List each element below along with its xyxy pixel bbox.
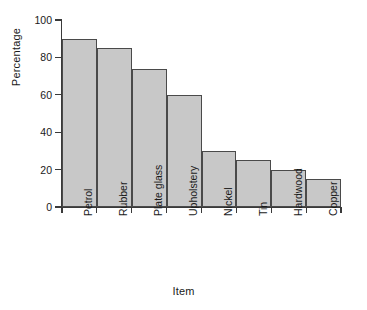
y-axis-tick-label: 60 [16, 90, 52, 100]
x-axis-tick [201, 207, 202, 213]
y-axis-tick [55, 169, 61, 170]
y-axis-tick-label: 100 [16, 15, 52, 25]
x-axis-tick [96, 207, 97, 213]
y-axis-tick-label: 0 [16, 202, 52, 212]
x-axis-tick [236, 207, 237, 213]
y-axis-tick [55, 19, 61, 20]
x-axis-category-label: Copper [328, 182, 339, 216]
x-axis-tick [306, 207, 307, 213]
x-axis-category-label: Hardwood [293, 168, 304, 216]
y-axis-tick-label: 80 [16, 52, 52, 62]
y-axis-tick [55, 57, 61, 58]
y-axis-tick-label: 20 [16, 165, 52, 175]
y-axis-tick [55, 132, 61, 133]
x-axis-tick [61, 207, 62, 213]
x-axis-title: Item [0, 285, 367, 297]
x-axis-tick [340, 207, 341, 213]
bar [62, 39, 97, 207]
y-axis-tick-label: 40 [16, 127, 52, 137]
x-axis-tick [166, 207, 167, 213]
x-axis-category-label: Plate glass [153, 165, 164, 216]
x-axis-category-label: Nickel [223, 187, 234, 216]
bar [236, 160, 271, 207]
x-axis-category-label: Tin [258, 202, 269, 216]
y-axis-tick [55, 206, 61, 207]
x-axis-category-label: Upholstery [188, 166, 199, 216]
x-axis-tick [131, 207, 132, 213]
x-axis-category-label: Petrol [83, 189, 94, 216]
x-axis-tick [271, 207, 272, 213]
y-axis-tick [55, 94, 61, 95]
x-axis-category-label: Rubber [118, 182, 129, 216]
bar-chart: Percentage 020406080100 PetrolRubberPlat… [0, 0, 367, 310]
